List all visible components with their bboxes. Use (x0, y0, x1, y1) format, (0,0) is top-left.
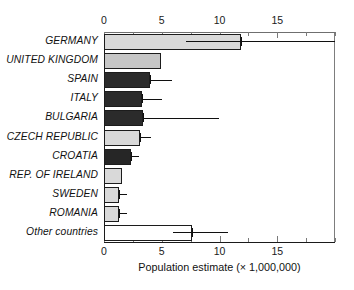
category-label: ROMANIA (0, 207, 98, 218)
category-label: SPAIN (0, 73, 98, 84)
x-axis-title: Population estimate (× 1,000,000) (104, 261, 335, 273)
error-bar-line (143, 118, 219, 119)
category-label: UNITED KINGDOM (0, 54, 98, 65)
error-bar-line (186, 41, 335, 42)
error-bar-line (142, 99, 162, 100)
bar (104, 187, 119, 203)
bar (104, 53, 161, 69)
category-label: SWEDEN (0, 188, 98, 199)
x-tick-label-top-0: 0 (89, 14, 119, 26)
bar (104, 91, 142, 107)
category-label: ITALY (0, 92, 98, 103)
error-bar-line (140, 137, 152, 138)
x-tick-label-bottom-0: 0 (89, 245, 119, 257)
error-bar-cap (131, 152, 132, 161)
x-tick-label-top-5: 5 (147, 14, 177, 26)
bar (104, 168, 122, 184)
error-bar-line (119, 194, 127, 195)
bar (104, 149, 131, 165)
bar (104, 110, 143, 126)
error-bar-cap (142, 94, 143, 103)
population-bar-chart: 005510101515 GERMANYUNITED KINGDOMSPAINI… (0, 0, 354, 290)
bar-row: Other countries (0, 223, 354, 245)
error-bar-cap (143, 113, 144, 122)
x-tick-label-bottom-15: 15 (262, 245, 292, 257)
x-tick-label-bottom-5: 5 (147, 245, 177, 257)
error-bar-cap (150, 75, 151, 84)
error-bar-cap (241, 37, 242, 46)
category-label: REP. OF IRELAND (0, 169, 98, 180)
category-label: BULGARIA (0, 111, 98, 122)
category-label: CZECH REPUBLIC (0, 131, 98, 142)
x-tick-label-top-10: 10 (205, 14, 235, 26)
error-bar-cap (192, 228, 193, 237)
error-bar-line (173, 232, 227, 233)
category-label: GERMANY (0, 35, 98, 46)
error-bar-cap (119, 190, 120, 199)
category-label: Other countries (0, 226, 98, 237)
x-tick-label-top-15: 15 (262, 14, 292, 26)
error-bar-line (150, 80, 172, 81)
error-bar-cap (140, 133, 141, 142)
bar (104, 130, 140, 146)
error-bar-cap (119, 209, 120, 218)
bar (104, 206, 119, 222)
category-label: CROATIA (0, 150, 98, 161)
bar (104, 72, 150, 88)
error-bar-line (131, 156, 139, 157)
x-tick-label-bottom-10: 10 (205, 245, 235, 257)
error-bar-line (119, 213, 127, 214)
